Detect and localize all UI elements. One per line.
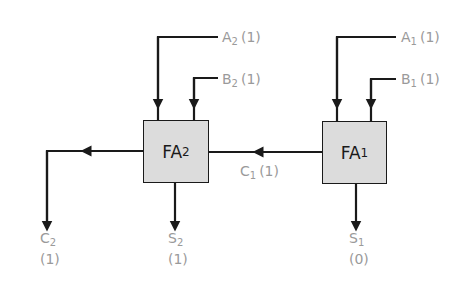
label-a2: A2(1) xyxy=(222,29,261,50)
label-c2: C2(1) xyxy=(40,230,60,267)
label-s1: S1(0) xyxy=(349,230,369,267)
full-adder-fa2: FA2 xyxy=(143,120,209,183)
label-a1: A1(1) xyxy=(401,29,440,50)
wire-b2 xyxy=(194,78,218,120)
full-adder-fa1: FA1 xyxy=(322,121,387,184)
wire-b1 xyxy=(371,79,396,121)
label-b2: B2(1) xyxy=(222,71,261,92)
label-b1: B1(1) xyxy=(401,71,440,92)
label-s2: S2(1) xyxy=(168,230,188,267)
label-c1: C1(1) xyxy=(240,163,279,184)
wire-c2 xyxy=(47,151,143,228)
